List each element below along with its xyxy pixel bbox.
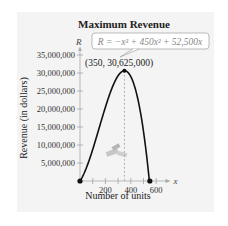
decorative-image [106,143,128,157]
data-point [122,69,126,73]
chart-title: Maximum Revenue [78,18,170,30]
y-tick-label: 10,000,000 [37,140,75,150]
y-tick-label: 5,000,000 [41,158,75,168]
revenue-chart: Maximum Revenue 5,000,00010,000,00015,00… [0,0,228,226]
y-tick-label: 35,000,000 [37,50,75,60]
marks-layer [77,69,152,184]
y-axis-label: Revenue (in dollars) [18,77,30,159]
y-ticks: 5,000,00010,000,00015,000,00020,000,0002… [37,50,83,168]
y-axis-arrow [78,47,82,51]
equation-callout: R = −x³ + 450x² + 52,500x [92,33,209,57]
data-point [77,178,82,183]
callout-pointer [120,49,139,57]
max-point-label: (350, 30,625,000) [85,58,153,69]
y-tick-label: 30,000,000 [37,68,75,78]
data-point [147,178,152,183]
revenue-curve [80,71,150,181]
y-tick-label: 25,000,000 [37,86,75,96]
x-tick-label: 600 [150,185,163,195]
curve-layer [80,71,150,181]
equation-text: R = −x³ + 450x² + 52,500x [97,37,203,47]
y-axis-variable: R [75,37,82,47]
x-axis-label: Number of units [85,190,151,201]
x-axis-variable: x [173,176,178,186]
y-tick-label: 20,000,000 [37,104,75,114]
x-axis-arrow [166,179,171,183]
y-tick-label: 15,000,000 [37,122,75,132]
